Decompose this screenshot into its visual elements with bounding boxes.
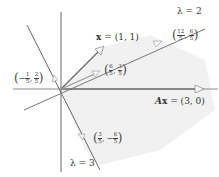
- label-lambda-2: λ = 2: [177, 7, 202, 16]
- lambda-2-text: λ = 2: [177, 6, 202, 16]
- diagram-canvas: [0, 0, 219, 177]
- label-lambda-3: λ = 3: [70, 159, 95, 168]
- label-vector-x: x = (1, 1): [96, 33, 139, 42]
- lambda-3-text: λ = 3: [70, 158, 95, 168]
- x-value: = (1, 1): [101, 32, 138, 42]
- A-symbol: A: [155, 96, 162, 106]
- Ax-value: = (3, 0): [167, 96, 204, 106]
- label-point-proj-lambda3: (−15, 25): [14, 72, 44, 84]
- label-point-image-lambda3: (35, −65): [93, 132, 123, 144]
- label-vector-Ax: Ax = (3, 0): [155, 97, 205, 106]
- label-point-image-lambda2: (125, 65): [172, 29, 198, 41]
- label-point-proj-lambda2: (65, 35): [104, 64, 127, 76]
